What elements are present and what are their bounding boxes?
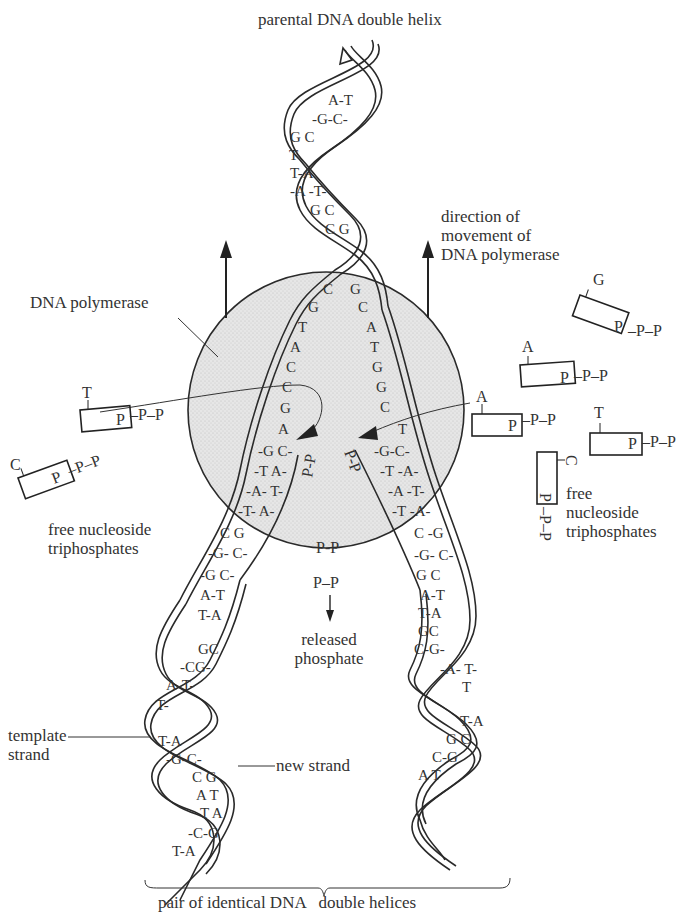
free-nucleotide-T-left: T P –P–P bbox=[80, 384, 164, 432]
free-nucleoside-left-line2: triphosphates bbox=[48, 539, 139, 558]
svg-text:–P–P: –P–P bbox=[641, 433, 676, 450]
svg-text:P: P bbox=[116, 411, 125, 428]
svg-text:T: T bbox=[289, 147, 298, 163]
free-nucleotide-G: G P –P–P bbox=[572, 271, 661, 339]
released-phosphate-line1: released bbox=[284, 630, 374, 649]
free-nucleoside-right-line1: free bbox=[566, 484, 592, 503]
svg-text:G C: G C bbox=[416, 567, 441, 583]
svg-text:T-A: T-A bbox=[290, 165, 314, 181]
svg-text:C: C bbox=[323, 281, 333, 297]
svg-text:-G- C-: -G- C- bbox=[414, 547, 454, 563]
svg-text:–P–P: –P–P bbox=[537, 506, 554, 541]
svg-text:P: P bbox=[614, 318, 623, 335]
svg-text:-G C-: -G C- bbox=[200, 567, 235, 583]
svg-text:-G-C-: -G-C- bbox=[166, 751, 202, 767]
svg-text:C G: C G bbox=[220, 525, 245, 541]
svg-text:T: T bbox=[462, 679, 471, 695]
free-nucleotide-A-entering: A P –P–P bbox=[472, 388, 556, 436]
svg-text:-T A-: -T A- bbox=[254, 463, 287, 479]
svg-text:A-T-: A-T- bbox=[166, 677, 195, 693]
free-nucleotide-A-upper: A P –P–P bbox=[520, 338, 608, 387]
svg-text:-CG-: -CG- bbox=[180, 659, 211, 675]
template-strand-line1: template bbox=[8, 726, 67, 745]
svg-text:C -G: C -G bbox=[414, 525, 444, 541]
svg-text:T: T bbox=[370, 339, 379, 355]
released-arrow-icon bbox=[326, 595, 334, 622]
svg-text:C G: C G bbox=[192, 769, 217, 785]
direction-label-line2: movement of bbox=[441, 226, 531, 245]
svg-text:G C: G C bbox=[446, 731, 471, 747]
released-phosphate-line2: phosphate bbox=[284, 649, 374, 668]
diagram-canvas: A-T -G-C- G C T T-A -A -T- G C C G C G T… bbox=[0, 0, 700, 914]
svg-text:P: P bbox=[508, 417, 517, 434]
svg-text:-G-C-: -G-C- bbox=[312, 111, 348, 127]
svg-text:T-: T- bbox=[156, 697, 169, 713]
svg-text:G C: G C bbox=[310, 202, 335, 218]
svg-text:-G- C-: -G- C- bbox=[208, 545, 248, 561]
free-nucleotide-C-left: C P –P–P bbox=[10, 451, 103, 498]
template-strand-line2: strand bbox=[8, 745, 50, 764]
released-pp-inside: P-P bbox=[316, 539, 339, 556]
svg-text:P: P bbox=[49, 468, 63, 487]
released-pp-outside: P–P bbox=[313, 574, 339, 591]
free-nucleotide-T-right: T P –P–P bbox=[590, 404, 676, 455]
svg-text:-T -A-: -T -A- bbox=[392, 503, 430, 519]
svg-text:-C-G: -C-G bbox=[188, 825, 219, 841]
svg-text:–P–P: –P–P bbox=[521, 411, 556, 428]
svg-text:-A- T-: -A- T- bbox=[246, 483, 283, 499]
svg-text:A: A bbox=[522, 338, 534, 355]
free-nucleoside-right-line3: triphosphates bbox=[566, 522, 657, 541]
svg-text:–P–P: –P–P bbox=[129, 406, 164, 423]
svg-text:G: G bbox=[593, 271, 605, 288]
parental-base-pairs: A-T -G-C- G C T T-A -A -T- G C C G bbox=[289, 92, 353, 237]
svg-text:A-T: A-T bbox=[328, 92, 353, 108]
svg-text:G C: G C bbox=[290, 129, 315, 145]
svg-text:-T -A-: -T -A- bbox=[380, 463, 418, 479]
svg-text:C G: C G bbox=[325, 221, 350, 237]
direction-arrow-left-icon bbox=[220, 240, 232, 318]
svg-text:P: P bbox=[537, 493, 554, 502]
svg-text:C: C bbox=[380, 399, 390, 415]
identical-helices-label: pair of identical DNA double helices bbox=[158, 893, 416, 912]
direction-label-line1: direction of bbox=[441, 207, 520, 226]
svg-text:A: A bbox=[476, 388, 488, 405]
svg-text:-G-C-: -G-C- bbox=[374, 443, 410, 459]
svg-text:P: P bbox=[628, 435, 637, 452]
svg-text:G: G bbox=[280, 400, 291, 416]
svg-text:-A -T-: -A -T- bbox=[290, 183, 327, 199]
svg-text:C: C bbox=[563, 455, 580, 466]
svg-text:A-T: A-T bbox=[200, 587, 225, 603]
svg-text:T-A: T-A bbox=[418, 605, 442, 621]
svg-text:A T: A T bbox=[196, 787, 219, 803]
svg-text:A: A bbox=[290, 339, 301, 355]
svg-text:C-G: C-G bbox=[432, 749, 458, 765]
svg-text:C: C bbox=[10, 456, 21, 473]
svg-text:GC: GC bbox=[198, 641, 219, 657]
svg-text:C: C bbox=[282, 379, 292, 395]
direction-label-line3: DNA polymerase bbox=[441, 245, 560, 264]
parental-dna-label: parental DNA double helix bbox=[258, 10, 442, 29]
svg-text:-G C-: -G C- bbox=[258, 443, 293, 459]
free-nucleoside-left-line1: free nucleoside bbox=[48, 520, 151, 539]
direction-arrow-right-icon bbox=[422, 240, 434, 318]
svg-text:-A -T-: -A -T- bbox=[388, 483, 425, 499]
svg-text:T-A: T-A bbox=[198, 607, 222, 623]
svg-text:–P–P: –P–P bbox=[573, 367, 608, 384]
free-nucleoside-right-line2: nucleoside bbox=[566, 503, 639, 522]
svg-text:A T: A T bbox=[418, 767, 441, 783]
svg-text:T A: T A bbox=[200, 805, 223, 821]
svg-text:G: G bbox=[350, 281, 361, 297]
svg-text:C: C bbox=[286, 359, 296, 375]
svg-text:C-G-: C-G- bbox=[414, 641, 445, 657]
svg-text:A-T: A-T bbox=[420, 587, 445, 603]
svg-text:A: A bbox=[278, 421, 289, 437]
svg-text:-T- A-: -T- A- bbox=[238, 503, 275, 519]
svg-text:T-A: T-A bbox=[158, 733, 182, 749]
svg-text:P: P bbox=[560, 369, 569, 386]
svg-text:T: T bbox=[398, 421, 407, 437]
svg-text:G: G bbox=[376, 379, 387, 395]
svg-text:GC: GC bbox=[418, 623, 439, 639]
svg-text:G: G bbox=[372, 359, 383, 375]
new-strand-label: new strand bbox=[276, 756, 350, 775]
svg-text:T-A: T-A bbox=[460, 713, 484, 729]
